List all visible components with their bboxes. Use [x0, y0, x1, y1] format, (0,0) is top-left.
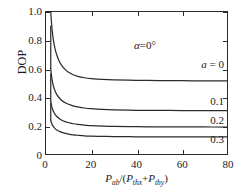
x-axis-numerator-symbol: P [105, 172, 112, 184]
x-axis-denom1-symbol: P [126, 172, 133, 184]
figure-container: DOP 1.0 0.8 0.6 0.4 0.2 0 0 20 40 60 80 … [0, 0, 242, 193]
curves-svg [46, 12, 227, 154]
plot-area: α=0° a = 0 0.1 0.2 0.3 [45, 11, 228, 155]
curve-label-a-value: = 0 [210, 58, 224, 70]
x-tick-label-20: 20 [71, 159, 111, 170]
x-tick-label-80: 80 [208, 159, 242, 170]
alpha-annotation: α=0° [134, 40, 156, 51]
x-axis-denom2-sub: thy [155, 178, 164, 187]
x-tick-label-60: 60 [162, 159, 202, 170]
curve-label-0.3: 0.3 [174, 134, 224, 145]
x-axis-close-paren: ) [164, 172, 168, 184]
alpha-value: 0° [146, 39, 156, 51]
x-axis-denom1-sub: thx [133, 178, 142, 187]
y-tick-label-0.8: 0.8 [2, 35, 42, 46]
y-tick-label-1.0: 1.0 [2, 6, 42, 17]
y-tick-label-0.6: 0.6 [2, 64, 42, 75]
x-tick-label-0: 0 [25, 159, 65, 170]
x-tick-label-40: 40 [117, 159, 157, 170]
x-axis-numerator-sub: ab [112, 178, 120, 187]
x-axis-denom2-symbol: P [148, 172, 155, 184]
x-axis-title: Pab/(Pthx+Pthy) [45, 172, 228, 186]
curve-label-0.2: 0.2 [174, 115, 224, 126]
curve-label-a-0: a = 0 [174, 59, 224, 70]
curve-label-a-symbol: a [201, 58, 207, 70]
y-tick-label-0.2: 0.2 [2, 121, 42, 132]
curve-label-0.1: 0.1 [174, 96, 224, 107]
y-tick-label-0.4: 0.4 [2, 92, 42, 103]
